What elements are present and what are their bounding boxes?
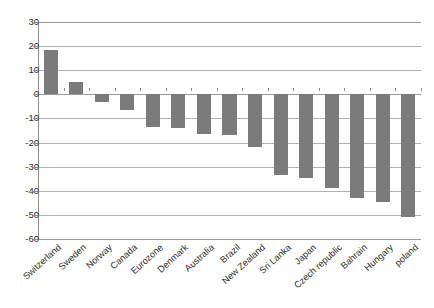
bar <box>222 94 236 135</box>
bar <box>197 94 211 134</box>
category-tick <box>421 88 422 91</box>
bar <box>325 94 339 188</box>
bar <box>248 94 262 147</box>
bar <box>376 94 390 201</box>
bar <box>299 94 313 177</box>
bar <box>274 94 288 175</box>
bar <box>350 94 364 198</box>
y-axis-tick-mark <box>33 239 38 240</box>
bar <box>95 94 109 101</box>
bar <box>44 50 58 95</box>
bar <box>146 94 160 127</box>
bar <box>171 94 185 128</box>
bar <box>69 82 83 94</box>
x-axis-labels: SwitzerlandSwedenNorwayCanadaEurozoneDen… <box>0 241 434 308</box>
gridline <box>38 239 421 240</box>
bar-chart: 3020100-10-20-30-40-50-60 SwitzerlandSwe… <box>0 0 434 308</box>
bar <box>401 94 415 217</box>
bars-layer <box>38 22 421 239</box>
bar <box>120 94 134 110</box>
